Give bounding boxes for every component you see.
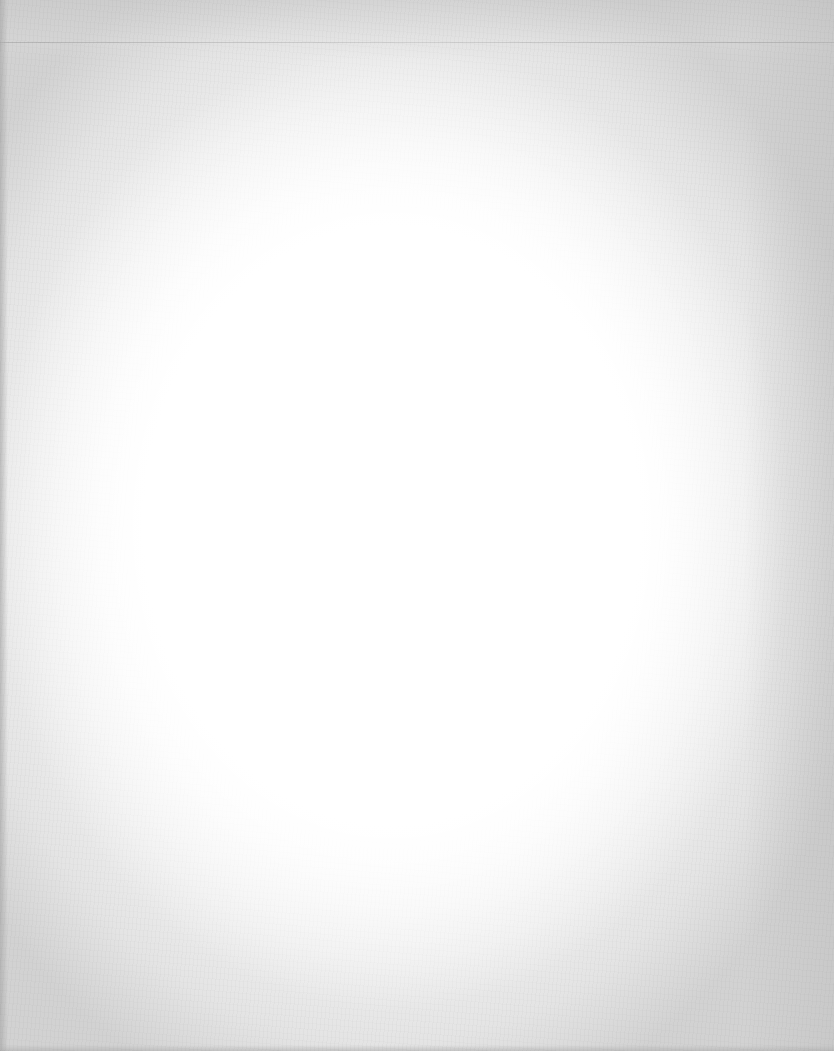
right-scan-shadow [744,0,834,1051]
left-scan-edge [0,0,8,1051]
top-scan-shadow [0,0,834,60]
top-horizontal-rule [0,42,834,43]
paper-texture [0,0,834,1051]
bottom-scan-edge [0,1045,834,1051]
blank-scanned-page [0,0,834,1051]
